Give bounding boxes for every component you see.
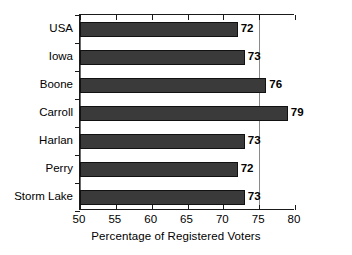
plot-area (79, 14, 294, 210)
bar (80, 50, 245, 65)
bar-value-label: 76 (269, 77, 282, 92)
x-tick-label: 75 (252, 212, 265, 226)
y-tick (75, 127, 80, 128)
x-tick-label: 80 (288, 212, 301, 226)
bar-value-label: 72 (241, 161, 254, 176)
x-tick-label: 55 (108, 212, 121, 226)
y-tick (75, 155, 80, 156)
bar (80, 22, 238, 37)
x-tick-bottom (116, 205, 117, 210)
x-tick-top (80, 15, 81, 20)
bar-value-label: 79 (291, 105, 304, 120)
x-axis-tick-labels: 50556065707580 (79, 212, 294, 228)
x-axis-title: Percentage of Registered Voters (0, 229, 352, 243)
bar (80, 78, 266, 93)
bar (80, 162, 238, 177)
bar-value-label: 73 (248, 133, 261, 148)
bar-value-label: 73 (248, 49, 261, 64)
x-tick-label: 65 (180, 212, 193, 226)
x-tick-top (259, 15, 260, 20)
x-tick-bottom (188, 205, 189, 210)
y-tick (75, 71, 80, 72)
category-label: Boone (40, 77, 73, 92)
x-tick-label: 50 (73, 212, 86, 226)
x-tick-label: 60 (144, 212, 157, 226)
x-tick-top (152, 15, 153, 20)
x-tick-top (116, 15, 117, 20)
category-label: Harlan (39, 133, 73, 148)
category-label: Perry (46, 161, 73, 176)
x-tick-bottom (223, 205, 224, 210)
category-label: Storm Lake (14, 189, 73, 204)
bar (80, 190, 245, 205)
x-tick-bottom (295, 205, 296, 210)
y-axis-category-labels: USAIowaBooneCarrollHarlanPerryStorm Lake (0, 14, 73, 210)
x-tick-top (295, 15, 296, 20)
x-tick-top (223, 15, 224, 20)
x-tick-bottom (80, 205, 81, 210)
x-tick-bottom (152, 205, 153, 210)
y-tick (75, 183, 80, 184)
y-tick (75, 43, 80, 44)
bar (80, 106, 288, 121)
bar-chart: USAIowaBooneCarrollHarlanPerryStorm Lake… (0, 0, 352, 255)
category-label: USA (49, 21, 73, 36)
x-tick-bottom (259, 205, 260, 210)
bar (80, 134, 245, 149)
y-tick (75, 15, 80, 16)
bar-value-label: 72 (241, 21, 254, 36)
y-tick (75, 99, 80, 100)
category-label: Carroll (39, 105, 73, 120)
x-tick-top (188, 15, 189, 20)
bar-value-label: 73 (248, 189, 261, 204)
x-tick-label: 70 (216, 212, 229, 226)
category-label: Iowa (49, 49, 73, 64)
